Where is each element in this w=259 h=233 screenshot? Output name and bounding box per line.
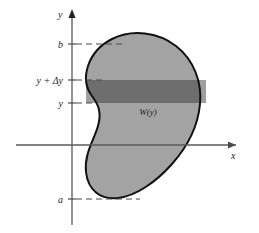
cross-section-strip	[60, 80, 210, 103]
tick-label-a: a	[58, 194, 63, 205]
tick-label-strip-top: y + Δy	[36, 75, 64, 86]
y-axis-label: y	[57, 9, 63, 20]
y-axis-arrow-icon	[69, 9, 76, 18]
tick-label-b: b	[58, 39, 63, 50]
region-label-w-of-y: W(y)	[139, 107, 157, 117]
x-axis-arrow-icon	[228, 142, 236, 149]
figure-svg: b y + Δy y a y x W(y)	[0, 0, 259, 233]
figure-container: b y + Δy y a y x W(y)	[0, 0, 259, 233]
x-axis-label: x	[230, 150, 236, 161]
tick-label-strip-bottom: y	[58, 98, 64, 109]
